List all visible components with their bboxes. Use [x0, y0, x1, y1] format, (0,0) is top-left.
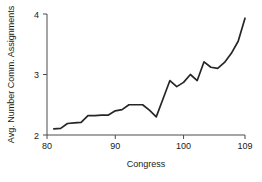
y-tick-label: 4 — [34, 10, 39, 20]
x-axis-ticks — [47, 135, 245, 139]
x-tick-label: 109 — [237, 141, 252, 151]
x-tick-label: 80 — [42, 141, 52, 151]
chart-figure: 234 8090100109 Congress Avg. Number Comm… — [0, 0, 262, 182]
y-tick-label: 2 — [34, 131, 39, 141]
x-axis: 8090100109 — [42, 135, 253, 151]
y-axis-ticks — [43, 14, 47, 135]
x-tick-label: 90 — [110, 141, 120, 151]
y-tick-label: 3 — [34, 70, 39, 80]
x-axis-title: Congress — [127, 159, 166, 169]
x-tick-label: 100 — [176, 141, 191, 151]
y-axis: 234 — [34, 10, 47, 141]
data-series-line — [54, 18, 245, 129]
line-chart: 234 8090100109 Congress Avg. Number Comm… — [0, 0, 262, 182]
x-axis-tick-labels: 8090100109 — [42, 141, 253, 151]
y-axis-tick-labels: 234 — [34, 10, 39, 141]
y-axis-title: Avg. Number Comm. Assignments — [6, 5, 16, 143]
